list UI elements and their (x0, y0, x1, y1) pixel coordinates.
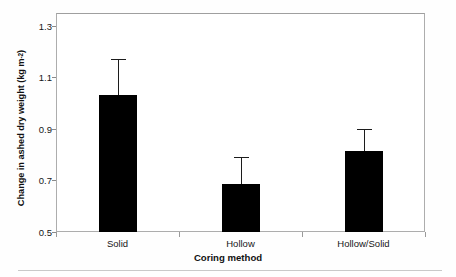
x-tick-mark-3 (425, 232, 426, 237)
y-axis-title: Change in ashed dry weight (kg m-2) (14, 13, 28, 243)
bar-hollow (222, 184, 260, 232)
y-axis-title-main: Change in ashed dry weight (kg m (16, 58, 26, 206)
x-tick-label-solid: Solid (107, 238, 128, 249)
x-tick-label-hollow-solid: Hollow/Solid (337, 238, 389, 249)
errorbar-stem-hollow-solid (364, 129, 365, 151)
y-tick-label-4: 0.7 (28, 175, 52, 186)
y-tick-label-5: 0.5 (28, 227, 52, 238)
errorbar-cap-solid (111, 59, 126, 60)
bottom-divider (18, 270, 442, 271)
errorbar-cap-hollow-solid (357, 129, 372, 130)
y-tick-label-3: 0.9 (28, 123, 52, 134)
errorbar-stem-hollow (241, 157, 242, 184)
errorbar-cap-hollow (234, 157, 249, 158)
x-tick-mark-0 (56, 232, 57, 237)
y-axis-tick-labels: 1.3 1.1 0.9 0.7 0.5 (28, 0, 52, 277)
x-tick-mark-2 (302, 232, 303, 237)
x-tick-label-hollow: Hollow (226, 238, 255, 249)
x-tick-mark-1 (179, 232, 180, 237)
plot-area (56, 13, 425, 232)
bar-solid (99, 95, 137, 232)
errorbar-stem-solid (118, 59, 119, 95)
x-axis-title: Coring method (0, 252, 456, 263)
y-axis-title-tail: ) (16, 50, 26, 53)
y-tick-label-1: 1.3 (28, 20, 52, 31)
y-tick-label-2: 1.1 (28, 72, 52, 83)
bar-hollow-solid (345, 151, 383, 232)
figure-container: Change in ashed dry weight (kg m-2) 1.3 … (0, 0, 456, 277)
